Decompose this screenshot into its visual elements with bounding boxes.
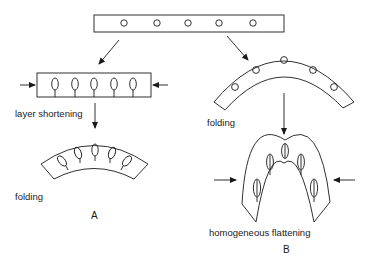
flattened-fold-b bbox=[242, 134, 330, 222]
label-folding-a: folding bbox=[15, 192, 43, 202]
label-layer-shortening: layer shortening bbox=[15, 109, 83, 119]
shortened-layer bbox=[37, 73, 151, 97]
strain-diagram bbox=[0, 0, 367, 264]
label-homogeneous-flattening: homogeneous flattening bbox=[209, 228, 310, 238]
label-folding-b: folding bbox=[207, 118, 235, 128]
arrow-to-b-icon bbox=[227, 36, 248, 60]
panel-label-b: B bbox=[283, 245, 290, 255]
panel-label-a: A bbox=[91, 211, 98, 221]
initial-layer bbox=[94, 15, 284, 32]
folded-layer-a bbox=[41, 144, 148, 179]
arrow-to-a-icon bbox=[99, 40, 119, 64]
